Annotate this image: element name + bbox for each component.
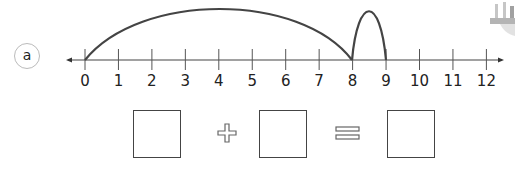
plus-icon <box>218 124 236 142</box>
jump-arc-8-to-9 <box>352 11 386 60</box>
left-arrow-icon <box>66 58 72 63</box>
answer-box-2[interactable] <box>259 110 307 158</box>
tick-label: 8 <box>348 72 358 90</box>
answer-box-1[interactable] <box>133 110 181 158</box>
tick-label: 12 <box>477 72 496 90</box>
tick-label: 6 <box>281 72 291 90</box>
tick-label: 0 <box>80 72 90 90</box>
tick-label: 7 <box>314 72 324 90</box>
tick-label: 1 <box>114 72 124 90</box>
tick-label: 11 <box>443 72 462 90</box>
tick-label: 5 <box>247 72 257 90</box>
right-arrow-icon <box>498 58 504 63</box>
answer-box-3[interactable] <box>387 110 435 158</box>
building-icon <box>490 2 515 36</box>
tick-label: 9 <box>381 72 391 90</box>
tick-label: 10 <box>410 72 429 90</box>
tick-label: 2 <box>147 72 157 90</box>
tick-label: 4 <box>214 72 224 90</box>
tick-label: 3 <box>181 72 191 90</box>
number-line-diagram <box>0 0 515 171</box>
equals-icon <box>336 127 359 139</box>
